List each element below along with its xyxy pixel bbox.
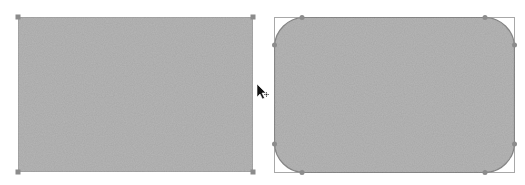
corner-handle-top-left-v[interactable]	[272, 43, 277, 48]
corner-handle-top-right-h[interactable]	[483, 15, 488, 20]
resize-handle-top-left[interactable]	[16, 15, 21, 20]
rounded-rectangle-shape[interactable]	[272, 15, 517, 175]
corner-handle-bottom-left-v[interactable]	[272, 142, 277, 147]
corner-handle-bottom-right-h[interactable]	[483, 170, 488, 175]
cursor-arrow-icon	[257, 84, 269, 99]
drawing-canvas[interactable]	[0, 0, 525, 185]
rectangle-shape[interactable]	[16, 15, 256, 175]
resize-handle-bottom-left[interactable]	[16, 170, 21, 175]
resize-handle-top-right[interactable]	[251, 15, 256, 20]
resize-handle-bottom-right[interactable]	[251, 170, 256, 175]
corner-handle-bottom-left-h[interactable]	[300, 170, 305, 175]
corner-handle-bottom-right-v[interactable]	[512, 142, 517, 147]
corner-handle-top-right-v[interactable]	[512, 43, 517, 48]
corner-handle-top-left-h[interactable]	[300, 15, 305, 20]
